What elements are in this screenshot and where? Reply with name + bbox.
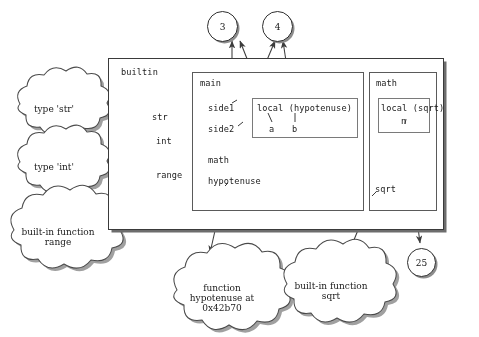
function-hypotenuse-cloud-line-2: hypotenuse at: [190, 293, 254, 303]
builtin-function-sqrt-cloud-line-1: built-in function: [294, 281, 367, 291]
builtin-function-range-cloud-line-1: built-in function: [21, 227, 94, 237]
value-circle-4: 4: [262, 11, 293, 42]
stub-n: [405, 119, 406, 124]
value-circle-3: 3: [207, 11, 238, 42]
stub-a: [268, 113, 272, 122]
stub-hypotenuse: [225, 183, 228, 186]
builtin-function-range-cloud: built-in function range: [4, 202, 112, 272]
type-str-cloud: type 'str': [10, 82, 98, 137]
builtin-function-sqrt-cloud-line-2: sqrt: [322, 291, 340, 301]
builtin-function-sqrt-cloud: built-in function sqrt: [277, 256, 385, 326]
value-circle-25: 25: [407, 248, 436, 277]
stub-sqrt: [372, 192, 376, 196]
stub-side1: [232, 100, 237, 103]
function-hypotenuse-cloud-line-3: 0x42b70: [202, 303, 241, 313]
value-circle-4-label: 4: [275, 22, 281, 32]
function-hypotenuse-cloud: function hypotenuse at 0x42b70: [167, 262, 277, 334]
builtin-function-range-cloud-line-2: range: [45, 237, 72, 247]
value-circle-25-label: 25: [416, 258, 427, 268]
function-hypotenuse-cloud-line-1: function: [203, 283, 241, 293]
type-int-cloud: type 'int': [10, 140, 98, 195]
type-str-cloud-line-1: type 'str': [34, 104, 74, 114]
diagram-canvas: builtin main local (hypotenuse) math loc…: [0, 0, 479, 337]
stub-side2: [238, 122, 243, 126]
type-int-cloud-line-1: type 'int': [34, 162, 74, 172]
value-circle-3-label: 3: [220, 22, 226, 32]
